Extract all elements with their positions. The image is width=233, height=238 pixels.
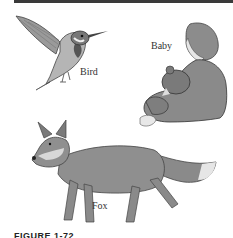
baby-label: Baby	[151, 40, 172, 51]
fox-illustration	[14, 120, 224, 228]
fox-label: Fox	[92, 200, 108, 211]
baby-illustration	[130, 18, 233, 134]
hummingbird-illustration	[12, 12, 112, 92]
figure-caption: FIGURE 1-72	[14, 231, 74, 238]
top-rule	[14, 0, 233, 3]
bird-label: Bird	[80, 66, 98, 77]
